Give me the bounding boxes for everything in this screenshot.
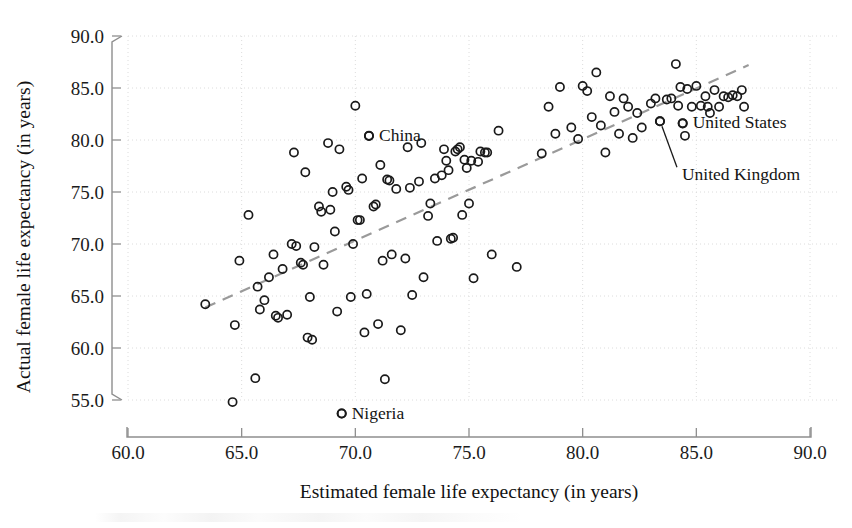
point-annotations: ChinaNigeriaUnited StatesUnited Kingdom [338,112,801,422]
scatter-point [458,211,466,219]
scatter-point [419,273,427,281]
scatter-point [269,250,277,258]
scatter-point [360,328,368,336]
y-tick-label: 55.0 [71,390,104,411]
scatter-point [426,199,434,207]
x-tick-label: 60.0 [111,442,144,463]
scatter-point [615,130,623,138]
x-tick-label: 70.0 [339,442,372,463]
scatter-point [256,305,264,313]
scatter-point [251,374,259,382]
y-tick-label: 85.0 [71,78,104,99]
scatter-point [740,103,748,111]
annotated-scatter-point [656,117,664,125]
scatter-point [231,321,239,329]
scatter-point [592,68,600,76]
scatter-point [588,113,596,121]
x-tick-label: 90.0 [793,442,826,463]
scatter-point [335,145,343,153]
scatter-point [597,121,605,129]
scatter-point [310,243,318,251]
y-tick-label: 65.0 [71,286,104,307]
scatter-point [469,274,477,282]
scatter-point [376,161,384,169]
annotated-scatter-point [338,409,346,417]
scatter-point [647,100,655,108]
x-tick-label: 80.0 [566,442,599,463]
y-tick-label: 80.0 [71,130,104,151]
y-axis-line [112,36,122,400]
x-tick-label: 75.0 [452,442,485,463]
x-tick-label: 65.0 [225,442,258,463]
scatter-point [379,257,387,265]
scatter-point [372,200,380,208]
data-points [201,60,748,418]
scatter-point [388,250,396,258]
annotation-leader-line [662,126,677,167]
scatter-point [408,291,416,299]
scatter-point [567,123,575,131]
scatter-point [701,92,709,100]
scatter-point [454,145,462,153]
scatter-point [433,237,441,245]
x-tick-label: 85.0 [680,442,713,463]
scatter-point [544,103,552,111]
scatter-point [674,102,682,110]
scatter-point [363,290,371,298]
scatter-point [624,103,632,111]
scatter-point [283,311,291,319]
scatter-point [619,94,627,102]
plot-canvas: 55.060.065.070.075.080.085.090.060.065.0… [0,0,852,528]
y-tick-label: 70.0 [71,234,104,255]
scatter-point [358,174,366,182]
scatter-point [440,145,448,153]
scatter-point [319,261,327,269]
x-axis-title: Estimated female life expectancy (in yea… [300,481,638,503]
scatter-point [710,86,718,94]
scatter-point [556,83,564,91]
scatter-point [369,202,377,210]
annotation-label-united-kingdom: United Kingdom [682,164,801,184]
scatter-point [444,166,452,174]
scatter-point [326,206,334,214]
scatter-point [347,293,355,301]
annotation-label-nigeria: Nigeria [352,403,405,423]
scatter-point [401,254,409,262]
scatter-point [442,157,450,165]
scatter-point [629,134,637,142]
scatter-point [551,130,559,138]
scatter-point [610,108,618,116]
scatter-point [494,127,502,135]
scatter-point [306,293,314,301]
annotated-scatter-point [679,119,687,127]
scatter-point [681,132,689,140]
annotation-label-united-states: United States [693,112,787,132]
scatter-point [583,87,591,95]
scatter-point [244,211,252,219]
scatter-point [381,375,389,383]
scatter-point [738,86,746,94]
scatter-point [415,178,423,186]
scatter-point [424,212,432,220]
scatter-point [601,148,609,156]
scatter-point [301,168,309,176]
scatter-point [333,308,341,316]
scatter-point [265,273,273,281]
scatter-point [638,123,646,131]
scatter-point [672,60,680,68]
scatter-chart: 55.060.065.070.075.080.085.090.060.065.0… [0,0,852,528]
scatter-point [488,250,496,258]
annotation-label-china: China [379,125,421,145]
scatter-point [651,94,659,102]
scatter-point [272,312,280,320]
scatter-point [290,148,298,156]
y-tick-label: 75.0 [71,182,104,203]
y-tick-label: 60.0 [71,338,104,359]
scatter-point [688,103,696,111]
scatter-point [715,103,723,111]
scatter-point [513,263,521,271]
scatter-point [260,296,268,304]
scatter-point [228,398,236,406]
scatter-point [274,314,282,322]
scatter-point [331,227,339,235]
